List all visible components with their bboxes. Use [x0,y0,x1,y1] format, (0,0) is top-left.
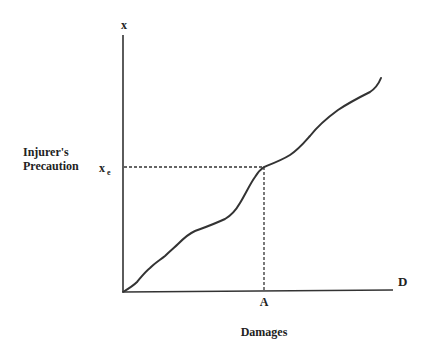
precaution-curve [123,78,381,292]
a-label: A [260,295,269,309]
x-e-label: x e [99,161,111,177]
x-e-label-base: x [99,161,105,175]
x-e-label-subscript: e [107,168,111,177]
precaution-damages-diagram: x D Injurer's Precaution x e A Damages [0,0,425,358]
x-axis [123,290,393,292]
x-axis-symbol: D [398,274,407,289]
y-axis-label-line2: Precaution [23,159,79,173]
x-axis-label: Damages [241,325,288,339]
y-axis-symbol: x [121,18,127,32]
y-axis-label-line1: Injurer's [23,145,69,159]
